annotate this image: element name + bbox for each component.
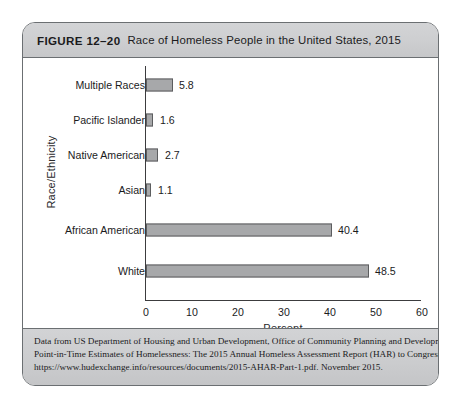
bars-layer: 5.8 1.6 2.7 1.1 40.4 48.5 <box>146 58 422 300</box>
source-line-1: Data from US Department of Housing and U… <box>34 335 427 348</box>
x-tick-10: 10 <box>186 306 198 318</box>
bar-value-pacific-islander: 1.6 <box>160 114 175 126</box>
x-tick-40: 40 <box>324 306 336 318</box>
category-label-asian: Asian <box>37 184 145 196</box>
figure-title: Race of Homeless People in the United St… <box>127 34 400 46</box>
bar-asian <box>146 184 151 197</box>
bar-value-native-american: 2.7 <box>165 149 180 161</box>
bar-white <box>146 265 369 278</box>
category-label-multiple-races: Multiple Races <box>37 79 145 91</box>
bar-value-multiple-races: 5.8 <box>179 79 194 91</box>
source-note: Data from US Department of Housing and U… <box>23 328 438 385</box>
figure-card: FIGURE 12–20 Race of Homeless People in … <box>22 22 439 386</box>
figure-header: FIGURE 12–20 Race of Homeless People in … <box>23 23 438 58</box>
category-label-native-american: Native American <box>37 149 145 161</box>
category-label-african-american: African American <box>37 224 145 236</box>
x-tick-50: 50 <box>370 306 382 318</box>
x-tick-20: 20 <box>232 306 244 318</box>
source-line-2: Point-in-Time Estimates of Homelessness:… <box>34 348 427 361</box>
category-label-pacific-islander: Pacific Islander <box>37 114 145 126</box>
x-axis-line <box>145 300 421 301</box>
bar-value-asian: 1.1 <box>158 184 173 196</box>
bar-value-white: 48.5 <box>375 265 396 277</box>
bar-native-american <box>146 149 158 162</box>
source-line-3: https://www.hudexchange.info/resources/d… <box>34 361 427 374</box>
bar-pacific-islander <box>146 114 153 127</box>
x-tick-60: 60 <box>416 306 428 318</box>
bar-african-american <box>146 224 332 237</box>
category-label-column: Multiple Races Pacific Islander Native A… <box>35 58 145 330</box>
category-label-white: White <box>37 265 145 277</box>
bar-multiple-races <box>146 79 173 92</box>
chart-plot-region: Race/Ethnicity Multiple Races Pacific Is… <box>23 58 439 330</box>
figure-number-label: FIGURE 12–20 <box>37 34 120 47</box>
x-tick-30: 30 <box>278 306 290 318</box>
bar-value-african-american: 40.4 <box>338 224 359 236</box>
x-tick-0: 0 <box>143 306 149 318</box>
